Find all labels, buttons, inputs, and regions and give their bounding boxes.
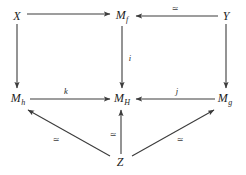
- edge-label-z-to-mg: ≃: [177, 136, 184, 144]
- node-z-base: Z: [117, 155, 124, 169]
- arrow-z-to-mh: [28, 110, 110, 156]
- node-y: Y: [223, 10, 230, 22]
- edge-label-mf-to-mh-center: i: [129, 54, 131, 63]
- arrow-z-to-mg: [132, 110, 214, 156]
- node-mh-capital: MH: [114, 92, 130, 107]
- node-mg-base: M: [218, 91, 228, 105]
- node-x: X: [13, 10, 20, 22]
- node-mg-subscript: g: [228, 97, 232, 106]
- node-z: Z: [117, 156, 124, 168]
- edge-label-z-to-mh-center: ≃: [110, 131, 117, 139]
- node-mf: Mf: [116, 9, 129, 24]
- node-mh-capital-base: M: [114, 91, 124, 105]
- node-mh-capital-subscript: H: [124, 97, 130, 106]
- node-x-base: X: [13, 9, 20, 23]
- node-mf-subscript: f: [126, 14, 128, 23]
- diagram-arrows: [0, 0, 246, 175]
- node-y-base: Y: [223, 9, 230, 23]
- node-mg: Mg: [218, 92, 232, 107]
- diagram-canvas: X Mf Y Mh MH Mg Z ≃ i k j ≃ ≃ ≃: [0, 0, 246, 175]
- node-mh-base: M: [11, 91, 21, 105]
- node-mh-subscript: h: [21, 97, 25, 106]
- node-mf-base: M: [116, 8, 126, 22]
- edge-label-z-to-mh: ≃: [53, 136, 60, 144]
- edge-label-y-to-mf: ≃: [172, 5, 179, 13]
- edge-label-mg-to-mh-center: j: [176, 87, 178, 96]
- node-mh: Mh: [11, 92, 25, 107]
- edge-label-mh-to-mh-center: k: [64, 87, 68, 96]
